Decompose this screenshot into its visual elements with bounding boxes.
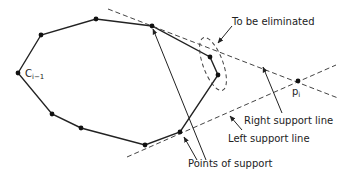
vertex-support-lower [178, 130, 183, 135]
label-right-support: Right support line [244, 115, 333, 126]
hull-label: Ci−1 [25, 68, 44, 81]
left-support-arrow [230, 116, 242, 130]
vertex-eliminated [216, 73, 221, 78]
vertex-c-im1 [16, 71, 21, 76]
convex-hull-diagram: Ci−1 pi To be eliminated Right support l… [0, 0, 348, 177]
hull-vertices [16, 17, 301, 148]
vertex-support-upper [150, 24, 155, 29]
vertex [39, 33, 44, 38]
vertex [94, 17, 99, 22]
label-left-support: Left support line [228, 133, 310, 144]
hull-polygon [18, 19, 218, 145]
eliminated-arrow [218, 26, 232, 43]
point-p-i [296, 79, 301, 84]
vertex [143, 143, 148, 148]
vertex-eliminated [208, 55, 213, 60]
support-arrow-upper [153, 29, 206, 160]
label-eliminated: To be eliminated [231, 16, 315, 27]
support-arrow-lower [184, 137, 197, 160]
label-points-of-support: Points of support [188, 158, 273, 169]
point-label: pi [292, 86, 300, 99]
vertex [50, 112, 55, 117]
vertex [79, 126, 84, 131]
right-support-arrow [263, 67, 282, 113]
